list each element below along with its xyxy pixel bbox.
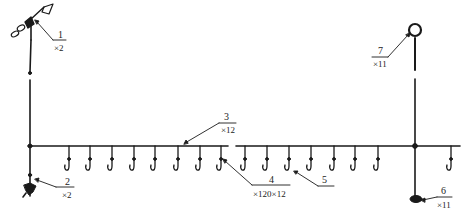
hook-icon (307, 146, 313, 170)
anchor-weight-icon (23, 183, 36, 197)
hook-icon (108, 146, 114, 170)
hook-icon (174, 146, 180, 170)
label-7-number: 7 (378, 45, 383, 56)
label-4-number: 4 (269, 174, 274, 185)
label-5-number: 5 (322, 174, 327, 185)
label-2: 2 ×2 (62, 176, 72, 200)
right-post (413, 38, 418, 196)
label-1-quantity: ×2 (54, 43, 64, 53)
leader-lines (35, 20, 452, 202)
label-4-quantity: ×120×12 (253, 189, 286, 199)
diagram-canvas: 1 ×2 2 ×2 3 ×12 4 ×120×12 5 6 ×11 7 ×11 (0, 0, 462, 221)
hook-icon (217, 146, 223, 170)
hook-icon (351, 146, 357, 170)
hook-icon (330, 146, 336, 170)
float-weight-icon (410, 196, 422, 203)
hook-icon (86, 146, 92, 170)
label-6: 6 ×11 (437, 185, 451, 210)
left-post (28, 40, 32, 196)
rigging-diagram: 1 ×2 2 ×2 3 ×12 4 ×120×12 5 6 ×11 7 ×11 (0, 0, 462, 221)
hook-icon (263, 146, 269, 170)
label-5: 5 (322, 174, 327, 185)
hook-icon (241, 146, 247, 170)
label-6-quantity: ×11 (437, 200, 451, 210)
hook-icon (374, 146, 380, 170)
label-2-number: 2 (65, 176, 70, 187)
hook-icon (196, 146, 202, 170)
label-7-quantity: ×11 (373, 59, 387, 69)
hook-icon (65, 146, 71, 170)
label-4: 4 ×120×12 (253, 174, 286, 199)
hook-icon (447, 146, 453, 170)
label-3-number: 3 (224, 111, 229, 122)
part-labels: 1 ×2 2 ×2 3 ×12 4 ×120×12 5 6 ×11 7 ×11 (54, 29, 451, 210)
hook-icon (151, 146, 157, 170)
label-2-quantity: ×2 (62, 190, 72, 200)
label-1: 1 ×2 (54, 29, 64, 53)
ring-icon (409, 24, 421, 36)
flag-vane-icon (10, 4, 53, 40)
hook-icon (130, 146, 136, 170)
hook-icon (285, 146, 291, 170)
label-1-number: 1 (58, 29, 63, 40)
hooks-group (65, 146, 453, 170)
label-3-quantity: ×12 (221, 125, 235, 135)
label-6-number: 6 (441, 185, 446, 196)
